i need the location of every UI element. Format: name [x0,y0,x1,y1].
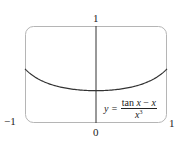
x-tick-label-right: 1 [169,118,175,129]
formula-tan: tan [122,97,137,108]
formula-minus: − [141,97,152,108]
y-tick-label-top: 1 [93,13,99,24]
function-formula: y = tan x − x x3 [104,97,157,120]
formula-x: x [152,97,156,108]
formula-exponent: 3 [140,109,143,115]
formula-fraction: tan x − x x3 [121,97,157,120]
formula-lhs: y = [104,103,118,114]
x-tick-label-left: −1 [4,116,16,127]
formula-numerator: tan x − x [121,97,157,109]
formula-denominator: x3 [135,109,142,120]
x-tick-label-origin: 0 [93,127,99,138]
plot-area [0,0,180,143]
